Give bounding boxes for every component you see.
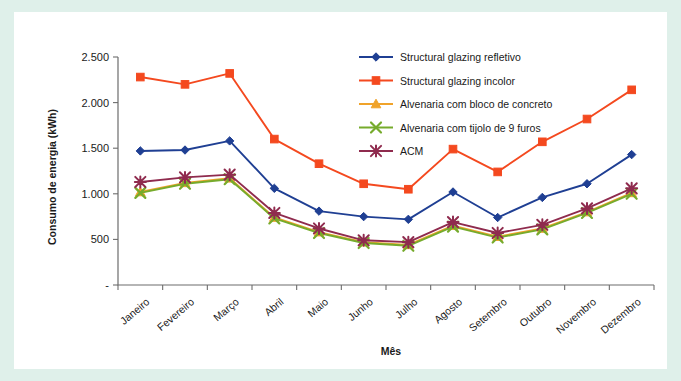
legend-item[interactable]: Structural glazing incolor (359, 75, 515, 87)
y-axis-tick-label: 1.000 (81, 188, 109, 200)
legend-item[interactable]: ACM (359, 145, 423, 157)
data-point-marker (493, 213, 501, 221)
legend-item[interactable]: Structural glazing refletivo (359, 51, 521, 63)
data-point-marker (628, 86, 636, 94)
x-axis-tick-label: Junho (345, 295, 375, 323)
legend-label: Structural glazing incolor (400, 75, 515, 87)
y-axis-tick-label: 500 (91, 233, 109, 245)
data-series (136, 173, 637, 248)
data-point-marker (180, 172, 191, 183)
x-axis-tick-label: Outubro (517, 295, 554, 329)
y-axis-title: Consumo de energia (kWh) (46, 109, 58, 245)
y-axis-tick-group: -5001.0001.5002.0002.500 (81, 51, 118, 291)
x-axis-tick-label: Julho (393, 295, 420, 320)
screenshot-root: Consumo de energia (kWh) Mês -5001.0001.… (0, 0, 681, 381)
legend-label: ACM (400, 145, 423, 157)
legend-label: Structural glazing refletivo (400, 51, 521, 63)
series-line (140, 175, 631, 242)
data-point-marker (448, 217, 459, 228)
data-point-marker (449, 188, 457, 196)
data-point-marker (405, 185, 413, 193)
data-point-marker (449, 145, 457, 153)
data-point-marker (181, 81, 189, 89)
data-point-marker (224, 169, 235, 180)
data-point-marker (403, 237, 414, 248)
x-axis-tick-label: Março (211, 295, 241, 323)
x-axis-tick-label: Fevereiro (155, 295, 197, 333)
legend-label: Alvenaria com bloco de concreto (400, 98, 552, 110)
y-axis-tick-label: 2.000 (81, 97, 109, 109)
x-axis-tick-label: Janeiro (118, 295, 152, 326)
chart-legend: Structural glazing refletivoStructural g… (359, 51, 552, 157)
x-axis-tick-label: Abril (262, 295, 286, 318)
x-axis-tick-group: JaneiroFevereiroMarçoAbrilMaioJunhoJulho… (118, 285, 654, 336)
data-series (137, 70, 636, 193)
data-point-marker (181, 146, 189, 154)
series-line (140, 73, 631, 189)
series-line (140, 178, 631, 245)
data-point-marker (372, 77, 380, 85)
data-point-marker (492, 228, 503, 239)
data-point-marker (583, 115, 591, 123)
data-point-marker (404, 215, 412, 223)
data-point-marker (137, 73, 145, 81)
data-point-marker (539, 138, 547, 146)
x-axis-tick-label: Maio (305, 295, 330, 319)
x-axis-title: Mês (381, 345, 402, 357)
data-point-marker (626, 183, 637, 194)
data-point-marker (314, 223, 325, 234)
y-axis-tick-label: 1.500 (81, 142, 109, 154)
data-point-marker (582, 203, 593, 214)
axis-lines (118, 57, 654, 285)
data-point-marker (538, 193, 546, 201)
data-point-marker (135, 176, 146, 187)
x-axis-tick-label: Setembro (466, 295, 509, 334)
y-axis-tick-label: 2.500 (81, 51, 109, 63)
data-point-marker (269, 207, 280, 218)
data-point-marker (315, 207, 323, 215)
data-point-marker (360, 180, 368, 188)
x-axis-tick-label: Agosto (432, 295, 465, 325)
data-point-marker (315, 160, 323, 168)
data-point-marker (358, 235, 369, 246)
y-axis-tick-label: - (105, 279, 109, 291)
data-point-marker (372, 53, 380, 61)
legend-item[interactable]: Alvenaria com bloco de concreto (359, 98, 552, 110)
data-series-group (135, 70, 637, 251)
data-point-marker (271, 135, 279, 143)
x-axis-tick-label: Dezembro (598, 295, 643, 335)
legend-label: Alvenaria com tijolo de 9 furos (400, 122, 541, 134)
series-line (140, 179, 631, 246)
data-point-marker (359, 212, 367, 220)
data-point-marker (371, 146, 382, 157)
energy-consumption-line-chart: Consumo de energia (kWh) Mês -5001.0001.… (14, 12, 667, 369)
data-point-marker (226, 70, 234, 78)
data-point-marker (136, 147, 144, 155)
x-axis-tick-label: Novembro (553, 295, 598, 335)
legend-item[interactable]: Alvenaria com tijolo de 9 furos (359, 122, 541, 134)
chart-canvas: Consumo de energia (kWh) Mês -5001.0001.… (14, 12, 667, 369)
data-point-marker (494, 168, 502, 176)
data-point-marker (537, 219, 548, 230)
